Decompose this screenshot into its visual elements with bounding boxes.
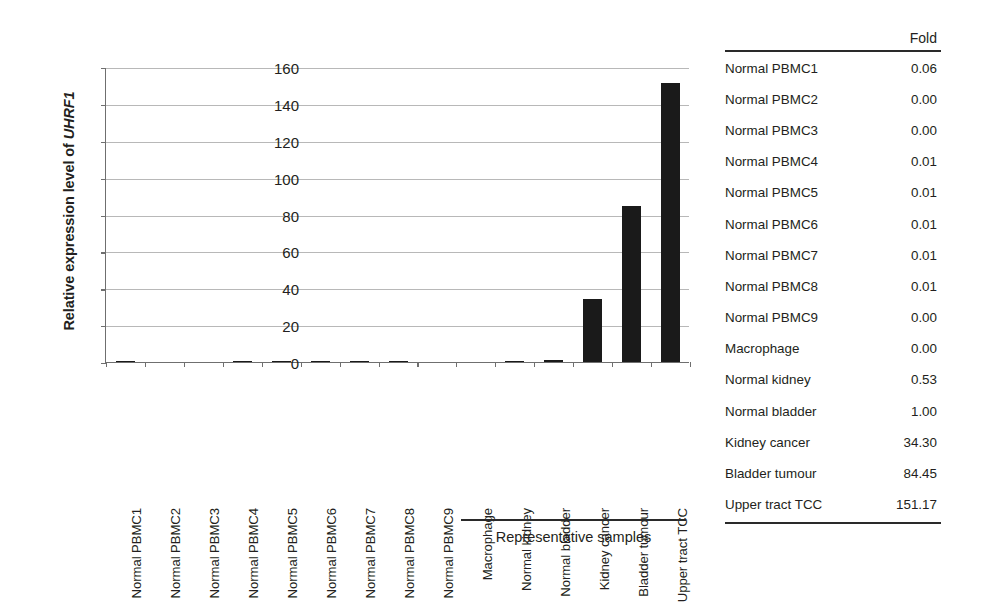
table-row: Normal PBMC60.01 bbox=[725, 209, 941, 240]
x-tick-mark bbox=[145, 362, 146, 367]
x-axis-label: Normal PBMC7 bbox=[363, 508, 378, 598]
y-tick-label: 20 bbox=[239, 318, 299, 335]
x-tick-mark bbox=[651, 362, 652, 367]
table-cell-sample-name: Normal PBMC6 bbox=[725, 209, 867, 232]
table-cell-fold-value: 1.00 bbox=[867, 396, 941, 419]
table-cell-sample-name: Normal PBMC2 bbox=[725, 84, 867, 107]
x-axis-label: Upper tract TCC bbox=[675, 508, 690, 602]
fold-table: Fold Normal PBMC10.06Normal PBMC20.00Nor… bbox=[725, 30, 941, 524]
table-cell-sample-name: Normal kidney bbox=[725, 364, 867, 387]
table-cell-fold-value: 34.30 bbox=[867, 427, 941, 450]
table-cell-fold-value: 0.01 bbox=[867, 177, 941, 200]
x-axis-label: Normal PBMC9 bbox=[441, 508, 456, 598]
y-tick-label: 60 bbox=[239, 244, 299, 261]
bar bbox=[622, 206, 641, 362]
table-row: Normal kidney0.53 bbox=[725, 364, 941, 395]
x-tick-mark bbox=[417, 362, 418, 367]
bar bbox=[583, 299, 602, 362]
table-cell-sample-name: Normal PBMC3 bbox=[725, 115, 867, 138]
y-tick-mark bbox=[101, 216, 106, 217]
y-tick-mark bbox=[101, 252, 106, 253]
table-row: Normal PBMC90.00 bbox=[725, 302, 941, 333]
bar bbox=[311, 361, 330, 362]
gridline bbox=[106, 179, 689, 180]
gridline bbox=[106, 216, 689, 217]
table-row: Normal PBMC40.01 bbox=[725, 146, 941, 177]
gridline bbox=[106, 105, 689, 106]
table-cell-fold-value: 0.00 bbox=[867, 302, 941, 325]
y-tick-mark bbox=[101, 289, 106, 290]
table-cell-fold-value: 0.01 bbox=[867, 146, 941, 169]
x-axis-label: Normal PBMC6 bbox=[324, 508, 339, 598]
table-cell-fold-value: 0.00 bbox=[867, 84, 941, 107]
x-axis-label: Normal bladder bbox=[558, 508, 573, 597]
table-cell-sample-name: Normal bladder bbox=[725, 396, 867, 419]
table-row: Normal PBMC30.00 bbox=[725, 115, 941, 146]
x-tick-mark bbox=[534, 362, 535, 367]
fold-table-header-row: Fold bbox=[725, 30, 941, 50]
plot-area bbox=[105, 68, 689, 363]
table-row: Bladder tumour84.45 bbox=[725, 458, 941, 489]
bar bbox=[116, 361, 135, 362]
representative-samples-rule bbox=[461, 519, 686, 521]
x-tick-mark bbox=[184, 362, 185, 367]
table-cell-sample-name: Normal PBMC5 bbox=[725, 177, 867, 200]
x-axis-label: Normal PBMC3 bbox=[207, 508, 222, 598]
table-cell-sample-name: Normal PBMC1 bbox=[725, 53, 867, 76]
y-axis-title-gene: UHRF1 bbox=[61, 91, 77, 139]
y-tick-label: 140 bbox=[239, 96, 299, 113]
y-axis-title: Relative expression level of UHRF1 bbox=[61, 46, 77, 376]
gridline bbox=[106, 289, 689, 290]
x-axis-label: Normal PBMC8 bbox=[402, 508, 417, 598]
bar bbox=[544, 360, 563, 362]
table-cell-sample-name: Normal PBMC9 bbox=[725, 302, 867, 325]
x-tick-mark bbox=[495, 362, 496, 367]
x-tick-mark bbox=[379, 362, 380, 367]
x-tick-mark bbox=[340, 362, 341, 367]
x-axis-label: Normal PBMC1 bbox=[129, 508, 144, 598]
table-row: Normal PBMC10.06 bbox=[725, 53, 941, 84]
y-tick-mark bbox=[101, 68, 106, 69]
y-tick-mark bbox=[101, 179, 106, 180]
gridline bbox=[106, 142, 689, 143]
table-row: Normal PBMC20.00 bbox=[725, 84, 941, 115]
table-row: Upper tract TCC151.17 bbox=[725, 489, 941, 520]
y-tick-label: 40 bbox=[239, 281, 299, 298]
y-tick-label: 100 bbox=[239, 170, 299, 187]
y-tick-mark bbox=[101, 142, 106, 143]
x-axis-label: Normal PBMC2 bbox=[168, 508, 183, 598]
y-tick-mark bbox=[101, 105, 106, 106]
bar bbox=[505, 361, 524, 362]
table-row: Kidney cancer34.30 bbox=[725, 427, 941, 458]
y-axis-title-text: Relative expression level of bbox=[61, 139, 77, 330]
table-row: Normal PBMC50.01 bbox=[725, 177, 941, 208]
bar bbox=[661, 83, 680, 362]
table-cell-fold-value: 84.45 bbox=[867, 458, 941, 481]
gridline bbox=[106, 252, 689, 253]
table-cell-sample-name: Normal PBMC8 bbox=[725, 271, 867, 294]
x-tick-mark bbox=[690, 362, 691, 367]
gridline bbox=[106, 68, 689, 69]
x-tick-mark bbox=[456, 362, 457, 367]
table-cell-sample-name: Upper tract TCC bbox=[725, 489, 867, 512]
table-cell-sample-name: Bladder tumour bbox=[725, 458, 867, 481]
table-row: Normal PBMC80.01 bbox=[725, 271, 941, 302]
table-row: Normal PBMC70.01 bbox=[725, 240, 941, 271]
bar bbox=[350, 361, 369, 362]
table-row: Normal bladder1.00 bbox=[725, 396, 941, 427]
x-axis-label: Normal PBMC5 bbox=[285, 508, 300, 598]
y-tick-mark bbox=[101, 326, 106, 327]
table-cell-fold-value: 0.00 bbox=[867, 333, 941, 356]
x-tick-mark bbox=[106, 362, 107, 367]
table-cell-fold-value: 0.01 bbox=[867, 209, 941, 232]
table-row: Macrophage0.00 bbox=[725, 333, 941, 364]
x-tick-mark bbox=[573, 362, 574, 367]
fold-table-header-name bbox=[725, 30, 867, 46]
table-cell-fold-value: 0.01 bbox=[867, 271, 941, 294]
y-tick-label: 120 bbox=[239, 133, 299, 150]
x-tick-mark bbox=[223, 362, 224, 367]
table-cell-sample-name: Kidney cancer bbox=[725, 427, 867, 450]
bar bbox=[389, 361, 408, 362]
fold-table-bottom-rule bbox=[725, 522, 941, 524]
fold-table-header-value: Fold bbox=[867, 30, 941, 46]
